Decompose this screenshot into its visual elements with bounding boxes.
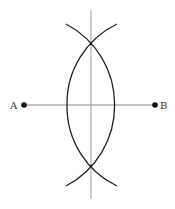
intersection-top xyxy=(90,43,92,45)
label-b: B xyxy=(160,100,167,111)
label-a: A xyxy=(9,100,18,111)
point-b xyxy=(152,102,158,108)
point-a xyxy=(21,102,27,108)
construction-diagram: A B xyxy=(0,0,175,209)
intersection-bottom xyxy=(90,165,92,167)
